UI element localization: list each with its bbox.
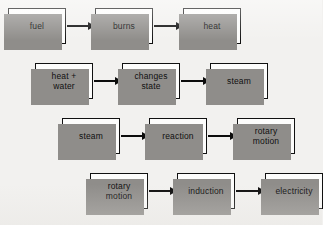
flow-node[interactable]: burns — [95, 8, 153, 44]
arrow-icon — [67, 25, 94, 27]
flow-node-label: changes state — [134, 71, 167, 92]
flow-node-label: heat + water — [52, 71, 77, 92]
arrow-icon — [181, 80, 209, 82]
flow-node[interactable]: induction — [177, 173, 235, 209]
flow-node-label: reaction — [162, 131, 193, 142]
flow-node-label: burns — [113, 21, 135, 32]
arrow-icon — [121, 135, 148, 137]
flow-node-label: heat — [203, 21, 220, 32]
flow-node[interactable]: steam — [210, 63, 268, 99]
arrow-icon — [208, 135, 236, 137]
flow-node-label: electricity — [275, 186, 312, 197]
flow-node[interactable]: steam — [62, 118, 120, 154]
flow-node[interactable]: rotary motion — [90, 173, 148, 209]
flow-node-label: rotary motion — [253, 126, 279, 147]
flow-node[interactable]: reaction — [149, 118, 207, 154]
flow-node-label: steam — [227, 76, 251, 87]
arrow-icon — [236, 190, 264, 192]
flow-node-label: rotary motion — [106, 181, 132, 202]
arrow-icon — [149, 190, 176, 192]
flow-node-label: induction — [188, 186, 223, 197]
flow-node[interactable]: heat — [183, 8, 241, 44]
flow-node-label: fuel — [30, 21, 44, 32]
flow-node[interactable]: changes state — [122, 63, 180, 99]
flow-node[interactable]: heat + water — [35, 63, 93, 99]
flow-node[interactable]: electricity — [265, 173, 323, 209]
flow-node[interactable]: rotary motion — [237, 118, 295, 154]
flow-node-label: steam — [79, 131, 103, 142]
flow-node[interactable]: fuel — [8, 8, 66, 44]
arrow-icon — [94, 80, 121, 82]
arrow-icon — [154, 25, 182, 27]
